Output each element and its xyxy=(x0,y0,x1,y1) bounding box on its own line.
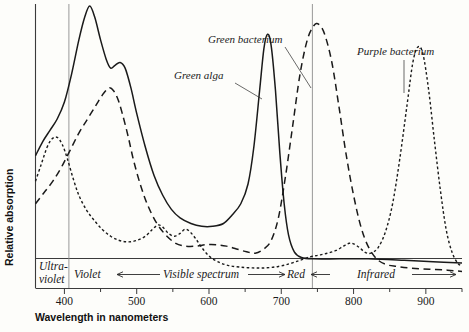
curve-green-bacterium xyxy=(36,24,463,272)
x-tick-labels: 400500600700800900 xyxy=(56,295,435,307)
label-visible-spectrum: Visible spectrum xyxy=(163,268,239,281)
curve-purple-bacterium xyxy=(36,46,463,268)
x-tick-label-500: 500 xyxy=(128,295,146,307)
region-bands: Ultra- violet Violet Visible spectrum Re… xyxy=(39,260,456,285)
leader-line xyxy=(285,47,311,88)
x-tick-label-800: 800 xyxy=(345,295,363,307)
x-axis-ticks xyxy=(64,289,462,295)
label-green-alga: Green alga xyxy=(174,69,224,81)
label-purple-bacterium: Purple bacterium xyxy=(356,45,434,57)
x-tick-label-600: 600 xyxy=(200,295,218,307)
leader-line xyxy=(235,83,262,99)
label-infrared: Infrared xyxy=(356,268,395,281)
vertical-gridlines xyxy=(69,4,313,288)
label-ultraviolet-line2: violet xyxy=(39,273,65,285)
label-ultraviolet-line1: Ultra- xyxy=(39,260,68,272)
x-tick-label-700: 700 xyxy=(273,295,291,307)
label-violet: Violet xyxy=(74,268,101,280)
x-axis-title: Wavelength in nanometers xyxy=(35,311,168,323)
chart-svg: Green bacterium Green alga Purple bacter… xyxy=(0,0,469,332)
label-red: Red xyxy=(286,268,305,280)
x-tick-label-900: 900 xyxy=(417,295,435,307)
label-green-bacterium: Green bacterium xyxy=(208,33,282,45)
y-axis-title: Relative absorption xyxy=(3,169,15,266)
x-tick-label-400: 400 xyxy=(56,295,74,307)
absorption-spectra-figure: Green bacterium Green alga Purple bacter… xyxy=(0,0,469,332)
